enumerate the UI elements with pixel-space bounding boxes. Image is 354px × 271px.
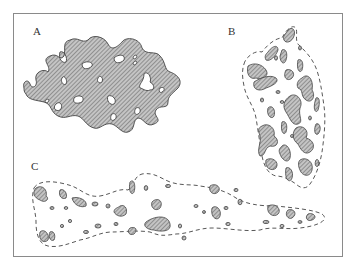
panel-c-label: C (31, 160, 38, 172)
panel-b-label: B (228, 25, 235, 37)
panel-c-shape (33, 174, 325, 247)
diagram-canvas (0, 0, 354, 271)
panel-a-shape (24, 37, 181, 133)
panel-b-shape (243, 27, 325, 188)
panel-a-label: A (33, 25, 41, 37)
